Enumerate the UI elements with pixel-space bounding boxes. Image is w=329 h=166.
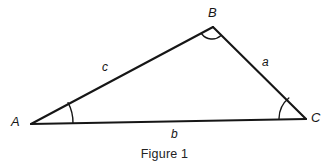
side-label-b: b — [171, 128, 178, 140]
side-label-a: a — [262, 56, 269, 68]
triangle-diagram — [0, 0, 329, 166]
angle-arc-a — [68, 103, 73, 124]
vertex-label-b: B — [208, 6, 217, 19]
side-a-line — [213, 27, 306, 119]
figure-container: A B C a b c Figure 1 — [0, 0, 329, 166]
side-label-c: c — [102, 61, 108, 73]
figure-caption: Figure 1 — [0, 147, 329, 161]
side-c-line — [31, 27, 213, 124]
vertex-label-a: A — [11, 115, 20, 128]
vertex-label-c: C — [311, 111, 320, 124]
angle-arc-b — [202, 34, 221, 39]
